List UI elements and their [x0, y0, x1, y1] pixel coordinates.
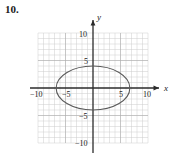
y-tick-labels: 10 5 −5 −10 — [75, 30, 88, 148]
x-tick-label: 10 — [143, 90, 151, 99]
x-axis-arrow — [154, 86, 160, 91]
y-tick-label: 10 — [79, 30, 87, 39]
y-axis-arrow — [91, 20, 96, 26]
y-axis-label: y — [96, 12, 101, 22]
y-tick-label: −5 — [79, 112, 88, 121]
x-tick-labels: −10 −5 5 10 — [30, 90, 151, 99]
y-tick-label: 5 — [84, 57, 88, 66]
x-tick-label: −10 — [30, 90, 43, 99]
axes — [30, 20, 159, 153]
x-axis-label: x — [163, 83, 168, 93]
x-tick-label: −5 — [62, 90, 71, 99]
coordinate-plane-figure: y x −10 −5 5 10 10 5 −5 −10 — [0, 0, 177, 153]
y-tick-label: −10 — [75, 139, 88, 148]
x-tick-label: 5 — [119, 90, 123, 99]
